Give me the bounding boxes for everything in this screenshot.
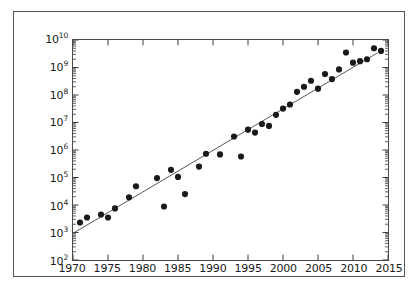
x-tick-label: 2005 [305, 263, 332, 274]
y-axis-major-ticks [73, 40, 388, 260]
y-tick-label: 107 [50, 117, 68, 128]
data-point [343, 49, 349, 55]
data-point [371, 45, 377, 51]
y-axis-tick-labels: 1021031041051061071081091010 [14, 39, 68, 261]
data-point [350, 60, 356, 66]
y-tick-label: 103 [50, 228, 68, 239]
data-point [105, 214, 111, 220]
data-point [301, 84, 307, 90]
data-point [322, 71, 328, 77]
data-point [182, 191, 188, 197]
data-point [378, 48, 384, 54]
data-point [98, 211, 104, 217]
x-tick-label: 2015 [375, 263, 402, 274]
data-point [154, 175, 160, 181]
data-point [203, 151, 209, 157]
x-axis-major-ticks [73, 40, 388, 260]
x-tick-label: 1985 [164, 263, 191, 274]
x-tick-label: 1970 [58, 263, 85, 274]
scatter-series [77, 45, 384, 225]
data-point [308, 78, 314, 84]
data-point [112, 205, 118, 211]
x-tick-label: 2010 [340, 263, 367, 274]
data-point [231, 133, 237, 139]
x-tick-label: 1980 [129, 263, 156, 274]
y-tick-label: 109 [50, 61, 68, 72]
data-point [84, 214, 90, 220]
y-tick-label: 105 [50, 172, 68, 183]
y-tick-label: 106 [50, 145, 68, 156]
y-tick-label: 104 [50, 200, 68, 211]
y-tick-label: 108 [50, 89, 68, 100]
data-point [336, 66, 342, 72]
data-point [364, 56, 370, 62]
data-point [315, 86, 321, 92]
x-tick-label: 1975 [94, 263, 121, 274]
data-point [196, 163, 202, 169]
x-tick-label: 1990 [199, 263, 226, 274]
y-axis-minor-ticks [73, 41, 388, 251]
data-point [252, 130, 258, 136]
scatter-plot-canvas [73, 40, 388, 260]
data-point [161, 203, 167, 209]
data-point [294, 89, 300, 95]
data-point [77, 219, 83, 225]
x-tick-label: 1995 [235, 263, 262, 274]
figure-frame: 1021031041051061071081091010 19701975198… [13, 11, 405, 277]
data-point [273, 112, 279, 118]
data-point [245, 127, 251, 133]
x-tick-label: 2000 [270, 263, 297, 274]
plot-area [72, 39, 389, 261]
data-point [133, 183, 139, 189]
data-point [238, 153, 244, 159]
data-point [266, 123, 272, 129]
data-point [126, 194, 132, 200]
y-tick-label: 1010 [45, 34, 68, 45]
data-point [329, 76, 335, 82]
x-axis-tick-labels: 1970197519801985199019952000200520102015 [72, 263, 389, 283]
data-point [168, 167, 174, 173]
data-point [287, 101, 293, 107]
data-point [280, 106, 286, 112]
data-point [259, 121, 265, 127]
data-point [175, 174, 181, 180]
data-point [217, 151, 223, 157]
data-point [357, 58, 363, 64]
